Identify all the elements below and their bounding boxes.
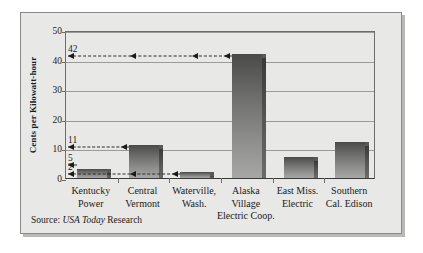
category-label-line: Cal. Edison bbox=[315, 198, 383, 211]
annotation-value-label: 11 bbox=[68, 136, 77, 146]
y-tick-mark bbox=[62, 121, 66, 122]
bar bbox=[232, 54, 262, 178]
y-tick-label: 30 bbox=[53, 86, 63, 96]
gridline bbox=[66, 32, 374, 33]
category-label-line: Alaska bbox=[232, 185, 260, 196]
chart-figure: Cents per Kilowatt-hour 0102030405042115… bbox=[20, 12, 402, 234]
category-label-line: Waterville, bbox=[172, 185, 216, 196]
y-tick-mark bbox=[62, 62, 66, 63]
y-tick-mark bbox=[62, 180, 66, 181]
x-axis-separator bbox=[221, 178, 222, 183]
annotation-arrowhead bbox=[172, 171, 178, 177]
x-axis-separator bbox=[169, 178, 170, 183]
annotation-arrowhead bbox=[130, 53, 136, 59]
x-axis-category-label: SouthernCal. Edison bbox=[315, 185, 383, 210]
plot-area: 01020304050421152 bbox=[65, 31, 375, 179]
category-label-line: East Miss. bbox=[277, 185, 319, 196]
source-publication: USA Today bbox=[62, 215, 105, 225]
y-tick-label: 10 bbox=[53, 146, 63, 156]
annotation-arrowhead bbox=[130, 171, 136, 177]
gridline bbox=[66, 91, 374, 92]
bar-side-face bbox=[314, 161, 318, 178]
gridline bbox=[66, 150, 374, 151]
y-tick-label: 50 bbox=[53, 27, 63, 37]
category-label-line: Central bbox=[128, 185, 157, 196]
gridline bbox=[66, 121, 374, 122]
x-axis-separator bbox=[118, 178, 119, 183]
bar bbox=[284, 157, 314, 178]
y-tick-label: 0 bbox=[57, 175, 62, 185]
annotation-leader-line bbox=[68, 147, 129, 148]
source-note: Source: USA Today Research bbox=[31, 215, 142, 225]
y-tick-mark bbox=[62, 91, 66, 92]
annotation-leader-line bbox=[68, 174, 180, 175]
bar-side-face bbox=[210, 176, 214, 178]
bar-side-face bbox=[262, 58, 266, 178]
category-label-line: Southern bbox=[331, 185, 367, 196]
annotation-leader-line bbox=[68, 55, 232, 56]
source-prefix: Source: bbox=[31, 215, 62, 225]
bar bbox=[335, 142, 365, 178]
y-axis-title: Cents per Kilowatt-hour bbox=[27, 31, 39, 179]
y-tick-mark bbox=[62, 150, 66, 151]
y-tick-label: 20 bbox=[53, 116, 63, 126]
category-label-line: Kentucky bbox=[71, 185, 110, 196]
annotation-arrowhead bbox=[192, 53, 198, 59]
annotation-value-label: 2 bbox=[68, 163, 73, 173]
x-axis-separator bbox=[273, 178, 274, 183]
x-axis-separator bbox=[324, 178, 325, 183]
category-label-line: Electric Coop. bbox=[212, 210, 280, 223]
bar-side-face bbox=[365, 146, 369, 178]
gridline bbox=[66, 62, 374, 63]
y-tick-label: 40 bbox=[53, 57, 63, 67]
source-suffix: Research bbox=[105, 215, 142, 225]
bar bbox=[180, 172, 210, 178]
annotation-arrowhead bbox=[121, 144, 127, 150]
annotation-value-label: 42 bbox=[68, 45, 78, 55]
y-tick-mark bbox=[62, 32, 66, 33]
annotation-arrowhead bbox=[224, 53, 230, 59]
